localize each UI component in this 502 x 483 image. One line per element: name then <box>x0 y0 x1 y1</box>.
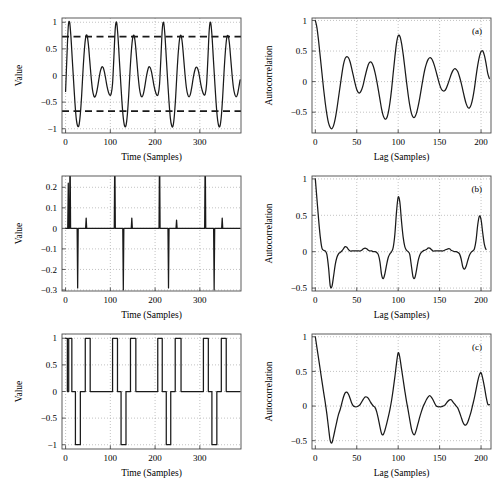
y-tick-label: −0.5 <box>41 97 58 107</box>
plot-panel-signal-b: 01002003000.20.10−0.1−0.2−0.3Time (Sampl… <box>4 162 252 325</box>
plot-panel-signal-c: 010020030010.50−0.5−1Time (Samples)Value <box>4 320 252 483</box>
y-tick-label: 1 <box>303 332 308 342</box>
plot-frame <box>312 176 491 291</box>
panel-tag: (a) <box>472 26 482 36</box>
y-tick-label: 0 <box>53 71 58 81</box>
y-tick-label: 0.1 <box>46 203 57 213</box>
gridlines <box>312 18 491 133</box>
data-series-acf-c <box>315 337 489 443</box>
panel-tag: (c) <box>472 342 482 352</box>
y-tick-label: 0 <box>53 224 58 234</box>
y-tick-label: 1 <box>303 16 308 26</box>
x-tick-label: 0 <box>63 453 68 463</box>
gridlines <box>312 334 491 449</box>
y-tick-label: −1 <box>47 440 57 450</box>
y-axis-label: Autocorrelation <box>264 45 274 105</box>
x-tick-label: 100 <box>104 453 118 463</box>
plot-panel-acf-b: 05010015020010.50−0.5Lag (Samples)Autoco… <box>254 162 502 325</box>
x-tick-label: 200 <box>474 137 488 147</box>
x-tick-label: 200 <box>148 453 162 463</box>
y-tick-label: −0.3 <box>41 285 58 295</box>
y-tick-label: −1 <box>47 124 57 134</box>
x-tick-label: 100 <box>391 295 405 305</box>
x-tick-label: 200 <box>148 295 162 305</box>
x-tick-label: 0 <box>313 137 318 147</box>
y-tick-label: −0.5 <box>291 436 308 446</box>
y-axis-label: Value <box>14 381 24 403</box>
y-tick-label: 0.5 <box>296 367 308 377</box>
y-tick-label: 0.5 <box>46 44 58 54</box>
y-tick-label: −0.5 <box>291 283 308 293</box>
y-tick-label: −0.5 <box>41 413 58 423</box>
x-tick-label: 50 <box>352 295 362 305</box>
x-axis-label: Lag (Samples) <box>374 468 430 479</box>
y-tick-label: 0 <box>303 401 308 411</box>
y-tick-label: −0.1 <box>41 244 57 254</box>
x-tick-label: 0 <box>313 295 318 305</box>
x-tick-label: 300 <box>193 295 207 305</box>
y-axis-label: Autocorrelation <box>264 203 274 263</box>
y-tick-label: 1 <box>303 174 308 184</box>
plot-panel-acf-c: 05010015020010.50−0.5Lag (Samples)Autoco… <box>254 320 502 483</box>
x-axis-label: Time (Samples) <box>121 468 182 479</box>
y-tick-label: −0.5 <box>291 107 308 117</box>
y-axis-label: Value <box>14 65 24 87</box>
x-tick-label: 0 <box>63 295 68 305</box>
y-tick-label: 0 <box>303 77 308 87</box>
y-tick-label: 0.5 <box>46 360 58 370</box>
x-tick-label: 100 <box>391 137 405 147</box>
y-tick-label: 0 <box>303 247 308 257</box>
x-tick-label: 300 <box>193 453 207 463</box>
plot-frame <box>312 334 491 449</box>
x-tick-label: 200 <box>474 295 488 305</box>
data-series-signal-a <box>62 21 241 127</box>
x-tick-label: 300 <box>193 137 207 147</box>
x-tick-label: 100 <box>104 295 118 305</box>
x-tick-label: 50 <box>352 453 362 463</box>
x-tick-label: 200 <box>474 453 488 463</box>
y-tick-label: 1 <box>53 17 58 27</box>
plot-panel-acf-a: 05010015020010.50−0.5Lag (Samples)Autoco… <box>254 4 502 167</box>
y-axis-label: Value <box>14 223 24 245</box>
y-tick-label: 0.2 <box>46 182 57 192</box>
x-tick-label: 100 <box>104 137 118 147</box>
x-tick-label: 50 <box>352 137 362 147</box>
data-series-acf-b <box>315 179 486 288</box>
data-series-signal-c <box>66 338 241 444</box>
plot-frame <box>312 18 491 133</box>
y-tick-label: 0.5 <box>296 46 308 56</box>
plot-panel-signal-a: 010020030010.50−0.5−1Time (Samples)Value <box>4 4 252 167</box>
x-tick-label: 150 <box>433 453 447 463</box>
x-tick-label: 150 <box>433 295 447 305</box>
x-tick-label: 0 <box>313 453 318 463</box>
x-tick-label: 150 <box>433 137 447 147</box>
gridlines <box>312 176 491 291</box>
x-tick-label: 200 <box>148 137 162 147</box>
data-series-signal-b <box>66 146 241 290</box>
y-tick-label: 0.5 <box>296 211 308 221</box>
x-tick-label: 100 <box>391 453 405 463</box>
y-tick-label: 1 <box>53 333 58 343</box>
y-axis-label: Autocorrelation <box>264 361 274 421</box>
x-tick-label: 0 <box>63 137 68 147</box>
y-tick-label: 0 <box>53 387 58 397</box>
y-tick-label: −0.2 <box>41 265 57 275</box>
panel-tag: (b) <box>472 184 483 194</box>
data-series-acf-a <box>315 20 489 128</box>
